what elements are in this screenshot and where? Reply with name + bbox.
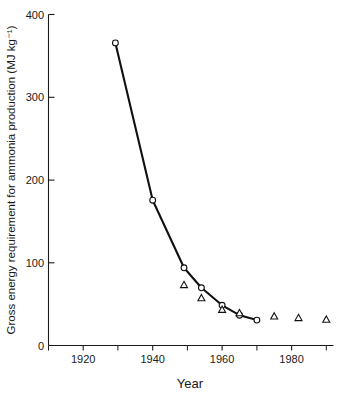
y-tick-labels: 400 300 200 100 0 xyxy=(26,9,44,352)
data-series-line xyxy=(115,43,257,320)
data-point-circle xyxy=(199,285,205,291)
x-tick-label-1940: 1940 xyxy=(140,353,164,365)
trend-polyline xyxy=(115,43,257,320)
x-tick-label-1980: 1980 xyxy=(279,353,303,365)
data-point-triangle xyxy=(198,295,205,301)
data-point-circle xyxy=(150,197,156,203)
x-tick-label-1960: 1960 xyxy=(210,353,234,365)
data-point-triangle xyxy=(236,309,243,315)
data-point-triangle xyxy=(181,281,188,287)
y-tick-label-300: 300 xyxy=(26,91,44,103)
y-tick-label-200: 200 xyxy=(26,174,44,186)
data-point-triangle xyxy=(295,314,302,320)
x-axis-title: Year xyxy=(177,376,204,391)
data-point-circle xyxy=(254,317,260,323)
data-point-circle xyxy=(113,40,119,46)
data-point-triangle xyxy=(323,316,330,322)
y-tick-label-0: 0 xyxy=(38,340,44,352)
y-tick-label-400: 400 xyxy=(26,9,44,21)
circle-markers-group xyxy=(113,40,260,323)
x-tick-labels: 1920 1940 1960 1980 xyxy=(71,353,304,365)
ammonia-energy-scatter-chart: 400 300 200 100 0 1920 1940 1960 1980 Gr… xyxy=(0,0,337,399)
y-axis-title: Gross energy requirement for ammonia pro… xyxy=(5,25,17,334)
data-point-circle xyxy=(181,265,187,271)
y-tick-label-100: 100 xyxy=(26,257,44,269)
y-tick-marks xyxy=(49,15,55,263)
x-tick-label-1920: 1920 xyxy=(71,353,95,365)
axes-group xyxy=(49,15,334,346)
x-tick-marks xyxy=(49,346,327,351)
chart-figure: 400 300 200 100 0 1920 1940 1960 1980 Gr… xyxy=(0,0,337,399)
data-point-triangle xyxy=(271,313,278,319)
